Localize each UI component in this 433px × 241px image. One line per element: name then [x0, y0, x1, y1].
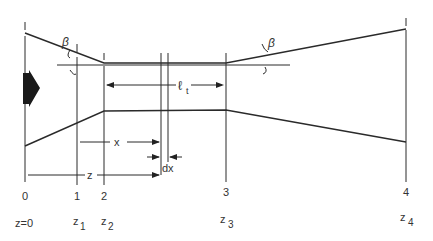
z1-label: z: [73, 215, 79, 227]
z2-subscript: 2: [108, 221, 114, 232]
arrowhead-dx-right-icon: [169, 154, 177, 160]
z4-label: z: [400, 211, 406, 223]
z-label: z: [87, 169, 93, 181]
beta-right-arc-lower: [263, 67, 266, 74]
z2-label: z: [101, 215, 107, 227]
z1-subscript: 1: [80, 221, 86, 232]
station-4-index: 4: [403, 186, 409, 198]
throat-length-subscript: t: [186, 86, 189, 96]
arrowhead-dx-left-icon: [152, 154, 160, 160]
station-3-index: 3: [223, 186, 229, 198]
x-label: x: [114, 136, 120, 148]
station-1-index: 1: [74, 190, 80, 202]
arrowhead-z-icon: [152, 172, 160, 178]
throat-length-label: ℓ: [178, 78, 183, 93]
dx-label: dx: [162, 162, 174, 174]
beta-left-arc-upper: [68, 50, 70, 58]
beta-left-arc-lower: [70, 70, 76, 75]
beta-right-label: β: [267, 36, 275, 50]
beta-left-label: β: [61, 35, 69, 49]
z3-label: z: [220, 213, 226, 225]
arrowhead-right-icon: [216, 82, 224, 88]
arrowhead-left-icon: [106, 82, 114, 88]
station-0-index: 0: [22, 190, 28, 202]
venturi-diagram: β β ℓ t x dx z 0 1 2 3 4 z=0 z 1 z 2 z 3…: [0, 0, 433, 241]
lower-wall: [25, 110, 406, 146]
z3-subscript: 3: [228, 219, 234, 230]
flow-direction-arrow-icon: [23, 70, 40, 107]
z0-label: z=0: [15, 217, 33, 229]
arrowhead-x-icon: [152, 139, 160, 145]
station-2-index: 2: [101, 190, 107, 202]
z4-subscript: 4: [408, 217, 414, 228]
upper-wall: [25, 29, 406, 63]
